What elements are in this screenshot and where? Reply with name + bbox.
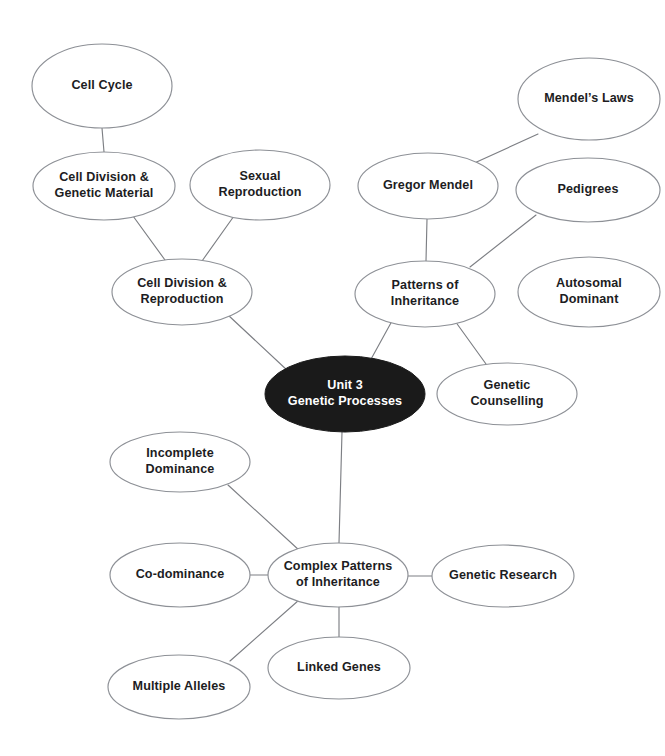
node-label-genetic-counselling-line-1: Counselling (470, 394, 543, 408)
node-linked-genes[interactable]: Linked Genes (268, 637, 410, 699)
node-label-cell-division-genetic-material-line-1: Genetic Material (55, 186, 154, 200)
node-label-unit-3-genetic-processes-line-1: Genetic Processes (288, 394, 402, 408)
node-label-genetic-counselling-line-0: Genetic (484, 378, 531, 392)
node-autosomal-dominant[interactable]: AutosomalDominant (518, 257, 660, 327)
node-mendels-laws[interactable]: Mendel’s Laws (518, 58, 660, 140)
node-label-autosomal-dominant-line-0: Autosomal (556, 276, 622, 290)
node-co-dominance[interactable]: Co-dominance (110, 543, 250, 607)
node-pedigrees[interactable]: Pedigrees (516, 158, 660, 222)
node-cell-division-reproduction[interactable]: Cell Division &Reproduction (112, 259, 252, 325)
node-label-sexual-reproduction-line-1: Reproduction (218, 185, 301, 199)
node-complex-patterns-of-inheritance[interactable]: Complex Patternsof Inheritance (268, 543, 408, 607)
node-label-genetic-research-line-0: Genetic Research (449, 568, 557, 582)
node-label-linked-genes-line-0: Linked Genes (297, 660, 381, 674)
mind-map-diagram: Cell CycleCell Division &Genetic Materia… (0, 0, 665, 756)
node-label-cell-division-genetic-material-line-0: Cell Division & (59, 170, 149, 184)
node-incomplete-dominance[interactable]: IncompleteDominance (110, 432, 250, 492)
node-label-gregor-mendel-line-0: Gregor Mendel (383, 178, 473, 192)
node-genetic-counselling[interactable]: GeneticCounselling (437, 363, 577, 425)
node-cell-cycle[interactable]: Cell Cycle (32, 44, 172, 128)
node-cell-division-genetic-material[interactable]: Cell Division &Genetic Material (33, 152, 175, 220)
node-label-cell-cycle-line-0: Cell Cycle (71, 78, 132, 92)
node-label-pedigrees-line-0: Pedigrees (557, 182, 618, 196)
node-label-patterns-of-inheritance-line-0: Patterns of (392, 278, 460, 292)
node-label-complex-patterns-of-inheritance-line-0: Complex Patterns (284, 559, 393, 573)
node-gregor-mendel[interactable]: Gregor Mendel (358, 153, 498, 219)
node-label-multiple-alleles-line-0: Multiple Alleles (133, 679, 226, 693)
node-label-patterns-of-inheritance-line-1: Inheritance (391, 294, 459, 308)
root-node-unit-3-genetic-processes[interactable]: Unit 3Genetic Processes (265, 356, 425, 432)
node-patterns-of-inheritance[interactable]: Patterns ofInheritance (355, 261, 495, 327)
node-label-cell-division-reproduction-line-1: Reproduction (140, 292, 223, 306)
node-label-autosomal-dominant-line-1: Dominant (560, 292, 620, 306)
node-label-co-dominance-line-0: Co-dominance (136, 567, 225, 581)
node-label-sexual-reproduction-line-0: Sexual (239, 169, 280, 183)
node-label-mendels-laws-line-0: Mendel’s Laws (544, 91, 634, 105)
node-genetic-research[interactable]: Genetic Research (432, 545, 574, 607)
node-label-complex-patterns-of-inheritance-line-1: of Inheritance (296, 575, 380, 589)
node-label-cell-division-reproduction-line-0: Cell Division & (137, 276, 227, 290)
node-label-incomplete-dominance-line-0: Incomplete (146, 446, 213, 460)
node-multiple-alleles[interactable]: Multiple Alleles (108, 655, 250, 719)
node-label-unit-3-genetic-processes-line-0: Unit 3 (327, 378, 363, 392)
node-sexual-reproduction[interactable]: SexualReproduction (190, 150, 330, 220)
node-label-incomplete-dominance-line-1: Dominance (146, 462, 215, 476)
